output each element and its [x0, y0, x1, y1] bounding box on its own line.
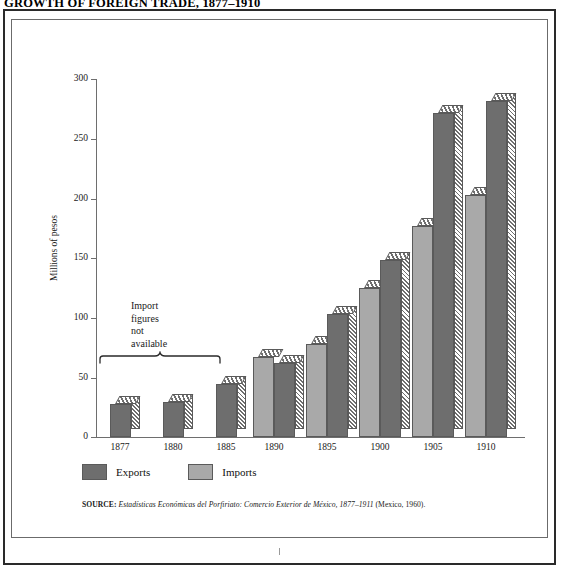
annotation-line-3: not	[131, 325, 167, 338]
bar-exports-1877	[110, 404, 131, 437]
annotation-line-4: available	[131, 338, 167, 351]
bar-face	[412, 226, 433, 437]
x-tick-label-1890: 1890	[244, 442, 304, 452]
annotation-line-1: Import	[131, 300, 167, 313]
legend-label-exports: Exports	[116, 466, 150, 478]
bar-exports-1900	[380, 260, 401, 437]
x-tick-label-1905: 1905	[403, 442, 463, 452]
chart-legend: Exports Imports	[82, 464, 256, 480]
x-tick-label-1877: 1877	[90, 442, 150, 452]
bar-imports-1905	[412, 226, 433, 437]
bar-side-hatch-icon	[507, 93, 516, 429]
x-tick-label-1900: 1900	[350, 442, 410, 452]
source-citation-title: Estadísticas Económicas del Porfiriato: …	[117, 500, 374, 509]
x-tick-label-1910: 1910	[456, 442, 516, 452]
legend-item-exports: Exports	[82, 464, 150, 480]
bar-imports-1900	[359, 288, 380, 437]
bar-face	[110, 404, 131, 437]
bar-face	[163, 402, 184, 437]
source-note: SOURCE: Estadísticas Económicas del Porf…	[82, 500, 512, 509]
curly-brace-icon	[99, 351, 221, 365]
bar-face	[274, 363, 295, 437]
bar-face	[327, 314, 348, 437]
bar-face	[359, 288, 380, 437]
bar-top-hatch-icon	[279, 355, 304, 363]
legend-item-imports: Imports	[188, 464, 256, 480]
bar-side-hatch-icon	[295, 355, 304, 429]
bar-top-hatch-icon	[438, 105, 463, 113]
bar-top-hatch-icon	[258, 349, 283, 357]
bar-side-hatch-icon	[401, 252, 410, 429]
bar-imports-1890	[253, 357, 274, 437]
page-center-mark	[279, 548, 280, 555]
bar-exports-1910	[486, 101, 507, 437]
bar-imports-1910	[465, 195, 486, 437]
bar-exports-1890	[274, 363, 295, 437]
bar-top-hatch-icon	[221, 376, 246, 384]
bar-top-hatch-icon	[491, 93, 516, 101]
bar-face	[380, 260, 401, 437]
annotation-line-2: figures	[131, 313, 167, 326]
bars-layer	[0, 0, 562, 572]
bar-imports-1895	[306, 344, 327, 437]
bar-face	[306, 344, 327, 437]
bar-top-hatch-icon	[168, 394, 193, 402]
bar-exports-1880	[163, 402, 184, 437]
bar-exports-1895	[327, 314, 348, 437]
bar-face	[465, 195, 486, 437]
bar-exports-1905	[433, 113, 454, 437]
bar-top-hatch-icon	[385, 252, 410, 260]
annotation-import-figures-not-available: Import figures not available	[131, 300, 167, 350]
bar-face	[216, 384, 237, 437]
source-citation-publisher: (Mexico, 1960).	[374, 500, 426, 509]
bar-exports-1885	[216, 384, 237, 437]
bar-side-hatch-icon	[454, 105, 463, 429]
legend-swatch-exports-icon	[82, 464, 107, 480]
bar-face	[253, 357, 274, 437]
bar-face	[486, 101, 507, 437]
bar-face	[433, 113, 454, 437]
legend-swatch-imports-icon	[188, 464, 213, 480]
legend-label-imports: Imports	[222, 466, 256, 478]
x-tick-label-1880: 1880	[143, 442, 203, 452]
bar-top-hatch-icon	[332, 306, 357, 314]
source-label: SOURCE:	[82, 500, 117, 509]
bar-top-hatch-icon	[115, 396, 140, 404]
bar-side-hatch-icon	[348, 306, 357, 429]
x-tick-label-1895: 1895	[297, 442, 357, 452]
